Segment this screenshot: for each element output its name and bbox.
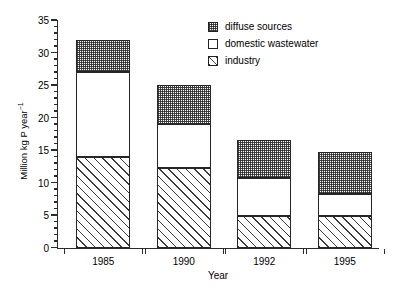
y-tick-label-20: 20 [27,112,49,123]
bar-segment-1990-domestic-wastewater [157,124,211,168]
legend-swatch-diffuse-sources [208,22,218,32]
y-tick-17 [54,136,58,137]
x-tick-1990-left [145,249,146,254]
y-tick-30 [51,52,57,53]
y-tick-15 [51,149,57,150]
y-tick-label-30: 30 [27,47,49,58]
y-tick-26 [54,78,58,79]
y-tick-4 [54,221,58,222]
y-tick-label-5: 5 [27,210,49,221]
y-tick-18 [54,130,58,131]
bar-1985 [76,20,130,248]
y-tick-6 [54,208,58,209]
y-tick-8 [54,195,58,196]
y-tick-19 [54,123,58,124]
bar-segment-1990-industry [157,168,211,247]
y-axis-line [57,20,58,249]
y-tick-label-0: 0 [27,242,49,253]
x-axis-line [57,248,379,249]
chart-legend: diffuse sourcesdomestic wastewaterindust… [208,18,318,69]
y-tick-28 [54,65,58,66]
bar-segment-1985-industry [76,157,130,248]
legend-item-domestic-wastewater: domestic wastewater [208,35,318,52]
y-tick-12 [54,169,58,170]
x-tick-label-1992: 1992 [253,256,275,267]
bar-segment-1992-diffuse-sources [237,140,291,178]
x-axis-label: Year [57,270,379,281]
y-tick-label-35: 35 [27,15,49,26]
y-tick-11 [54,175,58,176]
x-tick-label-1995: 1995 [334,256,356,267]
y-tick-29 [54,58,58,59]
y-tick-3 [54,227,58,228]
bar-segment-1992-industry [237,216,291,247]
y-tick-23 [54,97,58,98]
x-tick-label-1985: 1985 [92,256,114,267]
y-tick-32 [54,39,58,40]
legend-swatch-domestic-wastewater [208,39,218,49]
legend-item-industry: industry [208,52,318,69]
y-tick-27 [54,71,58,72]
legend-label-industry: industry [225,55,260,66]
bar-segment-1995-diffuse-sources [318,152,372,194]
bar-segment-1985-diffuse-sources [76,40,130,73]
y-tick-24 [54,91,58,92]
y-tick-0 [51,247,57,248]
x-tick-1995-left [306,249,307,254]
y-tick-13 [54,162,58,163]
x-tick-label-1990: 1990 [173,256,195,267]
y-tick-1 [54,240,58,241]
y-tick-34 [54,26,58,27]
legend-label-diffuse-sources: diffuse sources [225,21,292,32]
bar-segment-1992-domestic-wastewater [237,178,291,216]
y-tick-10 [51,182,57,183]
y-tick-31 [54,45,58,46]
bar-segment-1985-domestic-wastewater [76,72,130,157]
x-tick-1985-left [64,249,65,254]
x-tick-1985-right [142,249,143,254]
bar-1995 [318,20,372,248]
bar-segment-1995-industry [318,216,372,247]
x-tick-1992-left [225,249,226,254]
y-tick-21 [54,110,58,111]
y-tick-label-10: 10 [27,177,49,188]
y-tick-20 [51,117,57,118]
y-tick-label-25: 25 [27,80,49,91]
legend-label-domestic-wastewater: domestic wastewater [225,38,318,49]
y-tick-25 [51,84,57,85]
y-tick-16 [54,143,58,144]
y-tick-14 [54,156,58,157]
bar-segment-1990-diffuse-sources [157,85,211,124]
x-tick-1990-right [223,249,224,254]
y-tick-label-15: 15 [27,145,49,156]
y-tick-7 [54,201,58,202]
chart-figure: Million kg P year−1 35302520151050 19851… [0,0,398,294]
x-tick-1992-right [303,249,304,254]
legend-item-diffuse-sources: diffuse sources [208,18,318,35]
y-tick-35 [51,19,57,20]
y-tick-5 [51,214,57,215]
y-tick-2 [54,234,58,235]
y-tick-33 [54,32,58,33]
bar-1990 [157,20,211,248]
legend-swatch-industry [208,56,218,66]
y-tick-9 [54,188,58,189]
y-axis-label-exponent: −1 [17,102,24,110]
y-tick-22 [54,104,58,105]
x-tick-1995-right [384,249,385,254]
bar-segment-1995-domestic-wastewater [318,194,372,216]
